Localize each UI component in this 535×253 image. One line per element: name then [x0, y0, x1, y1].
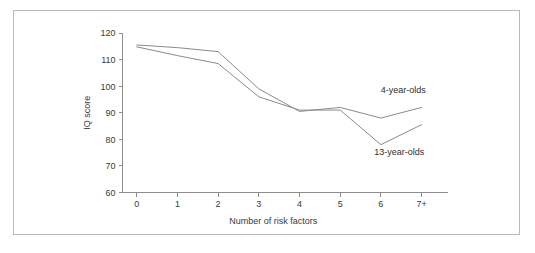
- series-label-13-year-olds: 13-year-olds: [374, 147, 425, 157]
- x-tick-label: 7+: [416, 199, 426, 209]
- series-annotations-group: 4-year-olds13-year-olds: [374, 85, 426, 157]
- series-label-4-year-olds: 4-year-olds: [381, 85, 427, 95]
- y-tick-label: 120: [100, 28, 115, 38]
- figure-root: 60708090100110120 01234567+ IQ score Num…: [0, 0, 535, 253]
- x-axis-ticks: 01234567+: [134, 193, 426, 209]
- y-tick-label: 100: [100, 82, 115, 92]
- line-chart: 60708090100110120 01234567+ IQ score Num…: [0, 0, 535, 253]
- y-tick-label: 80: [105, 135, 115, 145]
- axes-group: [123, 33, 449, 193]
- y-tick-label: 90: [105, 108, 115, 118]
- y-tick-label: 70: [105, 161, 115, 171]
- x-tick-label: 2: [216, 199, 221, 209]
- y-axis-title: IQ score: [82, 96, 92, 130]
- x-tick-label: 0: [134, 199, 139, 209]
- data-line-13-year-olds: [137, 47, 422, 145]
- x-tick-label: 4: [297, 199, 302, 209]
- x-tick-label: 3: [256, 199, 261, 209]
- x-tick-label: 5: [338, 199, 343, 209]
- x-tick-label: 6: [378, 199, 383, 209]
- x-axis-title: Number of risk factors: [229, 216, 318, 226]
- y-axis-ticks: 60708090100110120: [100, 28, 122, 198]
- x-tick-label: 1: [175, 199, 180, 209]
- data-series-group: [137, 45, 422, 145]
- y-tick-label: 110: [101, 55, 115, 65]
- y-tick-label: 60: [105, 188, 115, 198]
